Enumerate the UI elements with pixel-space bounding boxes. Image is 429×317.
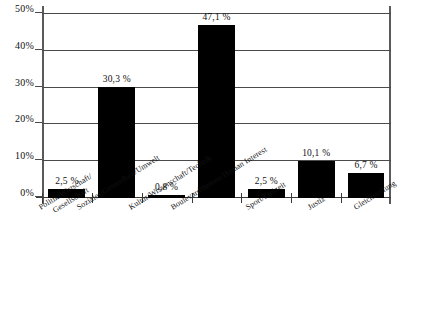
bar-slot: 0,8 % [142, 14, 192, 198]
bar[interactable] [298, 161, 335, 198]
x-tick-mark [291, 193, 292, 203]
bar-value-label: 30,3 % [103, 74, 131, 84]
y-tick-mark [35, 86, 42, 87]
y-tick-mark [35, 122, 42, 123]
bar[interactable] [348, 173, 385, 198]
x-tick-mark [92, 193, 93, 203]
bar-value-label: 0,8 % [155, 182, 178, 192]
bar[interactable] [48, 189, 85, 198]
y-tick-mark [35, 49, 42, 50]
bar-chart: 0%10%20%30%40%50% 2,5 %30,3 %0,8 %47,1 %… [0, 0, 429, 317]
plot-area: 0%10%20%30%40%50% 2,5 %30,3 %0,8 %47,1 %… [42, 14, 391, 198]
bar-value-label: 47,1 % [202, 12, 230, 22]
y-tick-label: 40% [15, 41, 34, 51]
bars-group: 2,5 %30,3 %0,8 %47,1 %2,5 %10,1 %6,7 % [42, 14, 391, 198]
y-tick-label: 30% [15, 78, 34, 88]
bar-slot: 6,7 % [341, 14, 391, 198]
y-tick-label: 0% [20, 188, 34, 198]
x-tick-mark [341, 193, 342, 203]
bar-slot: 2,5 % [241, 14, 291, 198]
bar-slot: 10,1 % [291, 14, 341, 198]
bar-value-label: 2,5 % [255, 176, 278, 186]
bar-value-label: 10,1 % [302, 148, 330, 158]
y-tick-label: 20% [15, 114, 34, 124]
bar[interactable] [98, 87, 135, 199]
bar[interactable] [148, 195, 185, 198]
x-tick-mark [192, 193, 193, 203]
y-tick-mark [35, 196, 42, 197]
x-tick-mark [42, 193, 43, 203]
y-tick-label: 50% [15, 4, 34, 14]
y-tick-mark [35, 159, 42, 160]
x-tick-mark [241, 193, 242, 203]
y-tick-mark [35, 12, 42, 13]
bar-slot: 47,1 % [192, 14, 242, 198]
bar-value-label: 2,5 % [55, 176, 78, 186]
bar-slot: 30,3 % [92, 14, 142, 198]
bar[interactable] [248, 189, 285, 198]
x-tick-mark [142, 193, 143, 203]
bar-value-label: 6,7 % [354, 160, 377, 170]
bar[interactable] [198, 25, 235, 198]
y-tick-label: 10% [15, 151, 34, 161]
bar-slot: 2,5 % [42, 14, 92, 198]
